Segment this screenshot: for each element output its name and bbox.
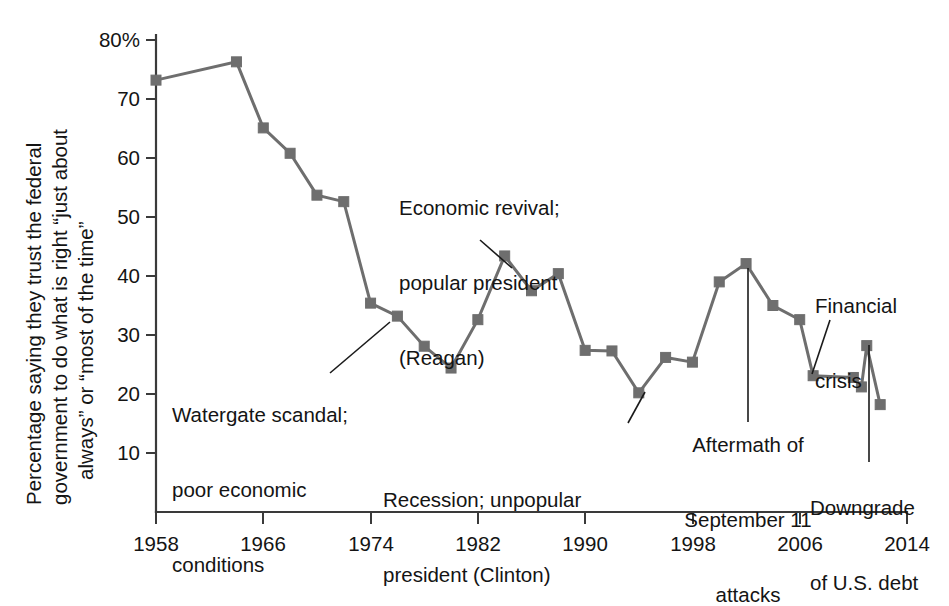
annotation-financial-crisis: Financial crisis <box>815 243 897 443</box>
annotation-downgrade-line-1: Downgrade <box>810 495 918 520</box>
data-point-marker <box>151 75 161 85</box>
data-point-marker <box>285 148 295 158</box>
annotation-watergate-line-3: conditions <box>172 552 348 577</box>
data-point-marker <box>661 352 671 362</box>
annotation-downgrade: Downgrade of U.S. debt <box>810 445 918 606</box>
data-point-marker <box>312 190 322 200</box>
annotation-reagan-line-1: Economic revival; <box>399 195 560 220</box>
data-point-marker <box>339 197 349 207</box>
y-tick-label-10: 10 <box>117 441 140 464</box>
y-tick-label-40: 40 <box>117 264 140 287</box>
annotation-clinton: Recession; unpopular president (Clinton) <box>383 437 581 606</box>
y-tick-label-20: 20 <box>117 382 140 405</box>
data-point-marker <box>795 315 805 325</box>
annotation-watergate-line-2: poor economic <box>172 477 348 502</box>
y-tick-label-50: 50 <box>117 205 140 228</box>
data-point-marker <box>580 345 590 355</box>
y-tick-label-80: 80% <box>99 28 140 51</box>
data-point-marker <box>607 346 617 356</box>
data-point-marker <box>768 301 778 311</box>
annotation-clinton-line-1: Recession; unpopular <box>383 487 581 512</box>
data-point-marker <box>231 57 241 67</box>
annotation-watergate: Watergate scandal; poor economic conditi… <box>172 352 348 606</box>
data-point-marker <box>258 123 268 133</box>
annotation-reagan-line-3: (Reagan) <box>399 345 560 370</box>
annotation-financial-crisis-line-1: Financial <box>815 293 897 318</box>
data-point-marker <box>741 259 751 269</box>
y-tick-label-30: 30 <box>117 323 140 346</box>
annotation-reagan: Economic revival; popular president (Rea… <box>399 145 560 420</box>
y-axis: 80% 70 60 50 40 30 20 10 <box>99 28 156 512</box>
y-tick-label-70: 70 <box>117 87 140 110</box>
annotation-watergate-line-1: Watergate scandal; <box>172 402 348 427</box>
y-tick-label-60: 60 <box>117 146 140 169</box>
data-point-marker <box>366 298 376 308</box>
annotation-clinton-line-2: president (Clinton) <box>383 562 581 587</box>
data-point-marker <box>687 357 697 367</box>
annotation-reagan-line-2: popular president <box>399 270 560 295</box>
annotation-downgrade-line-2: of U.S. debt <box>810 570 918 595</box>
data-point-marker <box>714 277 724 287</box>
annotation-financial-crisis-line-2: crisis <box>815 368 897 393</box>
